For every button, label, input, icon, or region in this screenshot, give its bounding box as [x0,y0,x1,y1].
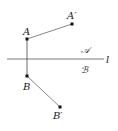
label-line-l: l [106,54,109,65]
point-b [26,75,29,78]
label-half-plane-a: 𝒜 [81,45,92,55]
label-a: A [22,26,30,37]
segment-b-bprime [27,76,60,107]
label-b-prime: B′ [52,110,63,121]
point-b-prime [59,106,62,109]
point-a-prime [71,23,74,26]
label-b: B [22,81,30,92]
point-a [26,38,29,41]
label-half-plane-b: ℬ [81,65,89,75]
segment-a-aprime [27,24,72,39]
label-a-prime: A′ [66,10,77,21]
diagram-canvas: A A′ B B′ l 𝒜 ℬ [0,0,118,131]
